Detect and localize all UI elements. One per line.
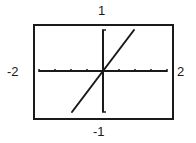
graph-window (0, 0, 196, 143)
